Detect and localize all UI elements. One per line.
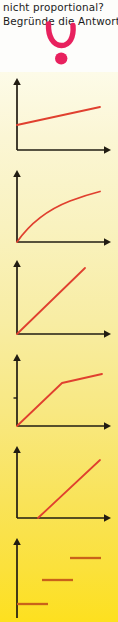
chart-1-curve — [17, 107, 100, 125]
charts-strip — [0, 72, 118, 622]
chart-panel-4 — [0, 348, 118, 440]
chart-5-curve — [38, 460, 100, 518]
chart-3-curve — [17, 268, 85, 334]
chart-panel-1 — [0, 72, 118, 164]
chart-panel-3 — [0, 256, 118, 348]
page-root: nicht proportional? Begründe die Antwort — [0, 0, 118, 622]
chart-panel-5 — [0, 440, 118, 532]
chart-2-curve — [17, 192, 100, 243]
question-line-1: nicht proportional? — [3, 1, 104, 13]
question-line-2: Begründe die Antwort — [3, 15, 118, 27]
chart-4-curve — [17, 374, 102, 426]
chart-panel-6 — [0, 532, 118, 622]
chart-panel-2 — [0, 164, 118, 256]
question-header: nicht proportional? Begründe die Antwort — [0, 0, 118, 72]
